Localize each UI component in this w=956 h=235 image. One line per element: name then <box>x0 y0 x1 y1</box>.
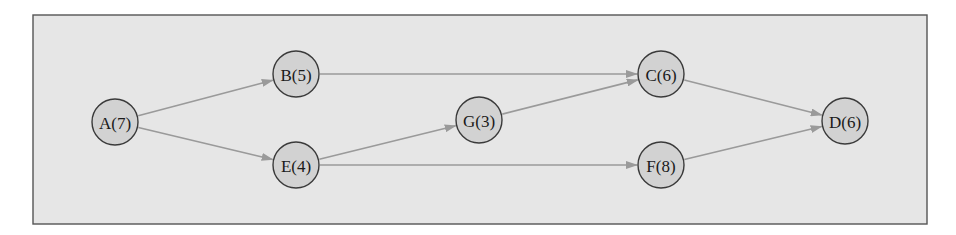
dependency-graph: A(7)B(5)E(4)G(3)C(6)F(8)D(6) <box>0 0 956 235</box>
node-f: F(8) <box>638 142 684 188</box>
node-label: B(5) <box>280 66 311 85</box>
node-c: C(6) <box>638 51 684 97</box>
node-label: A(7) <box>99 114 131 133</box>
node-g: G(3) <box>456 97 502 143</box>
node-label: G(3) <box>463 112 495 131</box>
node-d: D(6) <box>822 98 868 144</box>
node-label: E(4) <box>281 157 311 176</box>
node-e: E(4) <box>273 142 319 188</box>
node-label: F(8) <box>646 157 675 176</box>
node-label: C(6) <box>645 66 676 85</box>
node-b: B(5) <box>273 51 319 97</box>
node-label: D(6) <box>829 113 861 132</box>
node-a: A(7) <box>92 99 138 145</box>
